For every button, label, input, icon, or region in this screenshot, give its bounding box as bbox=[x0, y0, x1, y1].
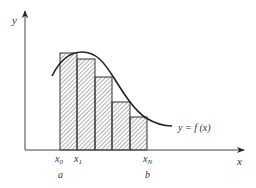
lower-bound-label: a bbox=[58, 169, 63, 180]
x0-label: x0 bbox=[54, 153, 63, 166]
rectangle-3 bbox=[95, 77, 112, 150]
riemann-sum-diagram: y x y = f (x) x0 x1 xN a b bbox=[0, 0, 256, 188]
upper-bound-label: b bbox=[145, 169, 150, 180]
y-axis-label: y bbox=[11, 14, 17, 26]
rectangle-2 bbox=[77, 59, 95, 150]
x-axis-label: x bbox=[236, 155, 242, 167]
xN-label: xN bbox=[142, 153, 152, 166]
riemann-rectangles bbox=[60, 53, 147, 150]
rectangle-4 bbox=[112, 102, 130, 150]
x1-label: x1 bbox=[73, 153, 82, 166]
rectangle-5 bbox=[130, 117, 147, 150]
rectangle-1 bbox=[60, 53, 77, 150]
curve-label: y = f (x) bbox=[177, 122, 211, 134]
